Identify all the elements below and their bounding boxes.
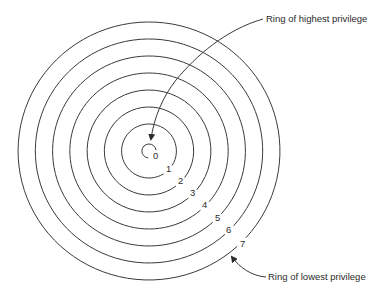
- ring-number-label: 4: [202, 199, 207, 210]
- ring-number-label: 3: [190, 187, 195, 198]
- ring-number-label: 1: [166, 163, 171, 174]
- ring-number-label: 5: [215, 212, 220, 223]
- lowest-privilege-label: Ring of lowest privilege: [268, 271, 366, 282]
- ring-number-label: 2: [178, 175, 183, 186]
- ring-number-label: 6: [226, 224, 231, 235]
- ring-number-label: 7: [240, 238, 245, 249]
- ring-number-label: 0: [153, 150, 158, 161]
- highest-privilege-label: Ring of highest privilege: [266, 13, 367, 24]
- lowest-privilege-arrow: [232, 257, 266, 277]
- highest-privilege-arrow: [151, 19, 263, 139]
- diagram-canvas: 01234567 Ring of highest privilege Ring …: [0, 0, 391, 295]
- privilege-rings-diagram: 01234567 Ring of highest privilege Ring …: [0, 0, 391, 295]
